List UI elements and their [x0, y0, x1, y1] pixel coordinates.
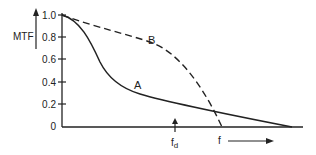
fd-label: fd — [171, 137, 178, 150]
x-axis-label: f — [218, 135, 221, 146]
curve-b — [62, 15, 222, 127]
tick-label-0.4: 0.4 — [42, 77, 56, 88]
y-axis-title: MTF — [13, 31, 34, 42]
tick-label-0.8: 0.8 — [42, 32, 56, 43]
curve-a — [62, 15, 292, 127]
y-axis-arrow-icon — [33, 8, 39, 49]
tick-label-0.2: 0.2 — [42, 99, 56, 110]
tick-label-1.0: 1.0 — [42, 10, 56, 21]
curve-a-label: A — [134, 79, 142, 91]
fd-arrow-icon — [172, 118, 178, 132]
curve-b-label: B — [148, 34, 155, 46]
tick-label-0: 0 — [50, 121, 56, 132]
chart-svg: 1.0 0.8 0.6 0.4 0.2 0 MTF B A fd f — [0, 0, 316, 155]
tick-label-0.6: 0.6 — [42, 54, 56, 65]
mtf-chart: 1.0 0.8 0.6 0.4 0.2 0 MTF B A fd f — [0, 0, 316, 155]
x-direction-arrow-icon — [228, 138, 274, 144]
